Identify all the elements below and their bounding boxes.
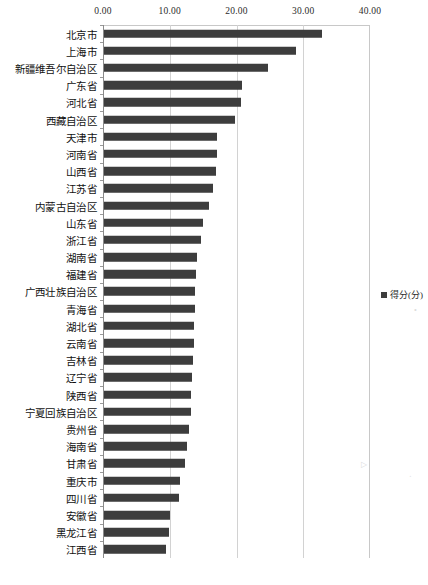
scan-artifact: • <box>414 306 417 315</box>
category-label: 湖南省 <box>66 250 97 265</box>
y-tick-mark <box>100 42 103 43</box>
category-label: 广西壮族自治区 <box>25 284 97 299</box>
bar-row: 陕西省 <box>0 386 428 403</box>
y-tick-mark <box>100 489 103 490</box>
bar-row: 河南省 <box>0 145 428 162</box>
bar-row: 新疆维吾尔自治区 <box>0 59 428 76</box>
bar <box>104 528 169 537</box>
y-tick-mark <box>100 111 103 112</box>
y-tick-mark <box>100 180 103 181</box>
category-label: 云南省 <box>66 336 97 351</box>
category-label: 江西省 <box>66 542 97 557</box>
y-tick-mark <box>100 77 103 78</box>
bar-row: 北京市 <box>0 25 428 42</box>
bar <box>104 47 296 56</box>
y-tick-mark <box>100 59 103 60</box>
bar <box>104 545 166 554</box>
bar-row: 广西壮族自治区 <box>0 283 428 300</box>
bar-rows: 北京市上海市新疆维吾尔自治区广东省河北省西藏自治区天津市河南省山西省江苏省内蒙古… <box>0 25 428 558</box>
chart-legend: 得分(分) <box>381 288 423 301</box>
y-tick-mark <box>100 386 103 387</box>
y-tick-mark <box>100 524 103 525</box>
category-label: 上海市 <box>66 43 97 58</box>
category-label: 甘肃省 <box>66 456 97 471</box>
y-tick-mark <box>100 283 103 284</box>
bar <box>104 390 191 399</box>
bar <box>104 150 217 159</box>
category-label: 山东省 <box>66 215 97 230</box>
category-label: 黑龙江省 <box>56 525 97 540</box>
scan-artifact: ⋅ <box>409 472 412 481</box>
category-label: 山西省 <box>66 164 97 179</box>
y-tick-mark <box>100 472 103 473</box>
category-label: 广东省 <box>66 78 97 93</box>
bar-row: 吉林省 <box>0 352 428 369</box>
bar <box>104 201 209 210</box>
bar <box>104 29 322 38</box>
x-tick-label: 40.00 <box>359 6 381 16</box>
y-tick-mark <box>100 214 103 215</box>
bar <box>104 408 191 417</box>
bar <box>104 476 180 485</box>
category-label: 辽宁省 <box>66 370 97 385</box>
bar <box>104 373 192 382</box>
y-tick-mark <box>100 231 103 232</box>
bar <box>104 184 213 193</box>
bar-row: 辽宁省 <box>0 369 428 386</box>
category-label: 河南省 <box>66 146 97 161</box>
x-tick-label: 0.00 <box>94 6 111 16</box>
category-label: 江苏省 <box>66 181 97 196</box>
bar <box>104 442 187 451</box>
y-tick-mark <box>100 420 103 421</box>
bar-row: 青海省 <box>0 300 428 317</box>
bar-row: 四川省 <box>0 489 428 506</box>
bar <box>104 304 195 313</box>
category-label: 四川省 <box>66 490 97 505</box>
bar-row: 海南省 <box>0 438 428 455</box>
category-label: 新疆维吾尔自治区 <box>15 60 97 75</box>
bar-row: 山西省 <box>0 163 428 180</box>
bar-row: 湖南省 <box>0 249 428 266</box>
bar <box>104 339 194 348</box>
x-tick-label: 30.00 <box>292 6 314 16</box>
bar-chart: 0.0010.0020.0030.0040.00 北京市上海市新疆维吾尔自治区广… <box>0 0 428 585</box>
legend-swatch-icon <box>381 292 387 298</box>
bar-row: 福建省 <box>0 266 428 283</box>
bar <box>104 115 235 124</box>
legend-label: 得分(分) <box>390 288 423 301</box>
bar <box>104 133 217 142</box>
bar <box>104 218 203 227</box>
bar <box>104 459 185 468</box>
y-tick-mark <box>100 506 103 507</box>
bar-row: 湖北省 <box>0 317 428 334</box>
bar <box>104 64 268 73</box>
bar <box>104 81 242 90</box>
y-tick-mark <box>100 369 103 370</box>
bar-row: 江苏省 <box>0 180 428 197</box>
bar <box>104 494 179 503</box>
bar-row: 宁夏回族自治区 <box>0 403 428 420</box>
bar <box>104 98 241 107</box>
bar <box>104 511 170 520</box>
category-label: 贵州省 <box>66 422 97 437</box>
y-tick-mark <box>100 352 103 353</box>
bar <box>104 425 189 434</box>
x-tick-label: 10.00 <box>159 6 181 16</box>
category-label: 宁夏回族自治区 <box>25 404 97 419</box>
y-tick-mark <box>100 403 103 404</box>
bar-row: 河北省 <box>0 94 428 111</box>
x-axis-tick-labels: 0.0010.0020.0030.0040.00 <box>0 6 428 22</box>
bar <box>104 287 195 296</box>
y-tick-mark <box>100 334 103 335</box>
bar <box>104 322 194 331</box>
y-tick-mark <box>100 197 103 198</box>
bar-row: 浙江省 <box>0 231 428 248</box>
y-tick-mark <box>100 163 103 164</box>
category-label: 浙江省 <box>66 232 97 247</box>
category-label: 陕西省 <box>66 387 97 402</box>
category-label: 吉林省 <box>66 353 97 368</box>
category-label: 安徽省 <box>66 508 97 523</box>
scan-artifact: ▷ <box>361 460 367 469</box>
bar-row: 重庆市 <box>0 472 428 489</box>
bar-row: 云南省 <box>0 334 428 351</box>
